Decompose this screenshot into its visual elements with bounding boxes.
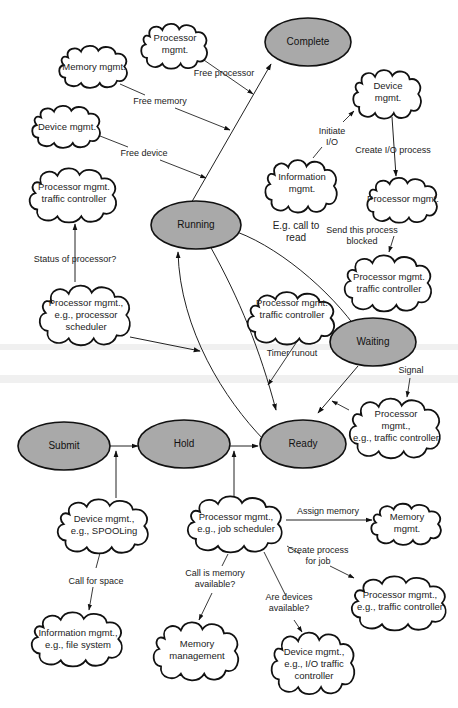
label-timer-runout: Timer runout bbox=[267, 348, 318, 358]
label-create-process: Create process bbox=[287, 545, 349, 555]
label-signal: Signal bbox=[398, 365, 423, 375]
state-label: Hold bbox=[174, 438, 195, 449]
cloud-label: traffic controller bbox=[260, 309, 325, 320]
label-create-process: for job bbox=[305, 556, 330, 566]
cloud-label: Processor mgmt. bbox=[256, 297, 328, 308]
label-call-to-read: read bbox=[286, 232, 306, 243]
leader-initiate-io-a bbox=[313, 147, 322, 158]
cloud-label: traffic controller bbox=[357, 283, 422, 294]
cloud-label: Information mgmt., bbox=[38, 627, 117, 638]
leader-are-devices-a bbox=[264, 552, 286, 596]
cloud-job-scheduler: Processor mgmt., e.g., job scheduler bbox=[188, 496, 282, 552]
cloud-label: Memory bbox=[390, 511, 425, 522]
cloud-device-mgmt-left: Device mgmt. bbox=[32, 106, 100, 148]
state-label: Ready bbox=[289, 438, 318, 449]
cloud-label: management bbox=[169, 650, 225, 661]
cloud-label: e.g., traffic controller bbox=[353, 432, 439, 443]
cloud-label: Processor mgmt. bbox=[353, 271, 425, 282]
edge-running-complete bbox=[190, 64, 271, 205]
cloud-processor-traffic-left: Processor mgmt. traffic controller bbox=[30, 168, 116, 222]
cloud-processor-scheduler: Processor mgmt., e.g., processor schedul… bbox=[40, 286, 130, 346]
leader-call-memory-a bbox=[222, 554, 228, 566]
cloud-label: e.g., SPOOLing bbox=[71, 525, 138, 536]
cloud-label: mgmt., bbox=[381, 420, 410, 431]
edge-waiting-ready bbox=[318, 366, 358, 413]
label-initiate-io: Initiate bbox=[319, 126, 346, 136]
state-complete: Complete bbox=[265, 18, 351, 66]
cloud-memory-management: Memory management bbox=[154, 622, 238, 680]
state-hold: Hold bbox=[138, 420, 230, 468]
cloud-device-mgmt-right: Device mgmt. bbox=[353, 70, 421, 119]
cloud-label: Processor mgmt., bbox=[363, 589, 437, 600]
cloud-label: e.g., file system bbox=[45, 639, 111, 650]
leader-signal-cloud bbox=[332, 401, 349, 410]
state-label: Submit bbox=[48, 440, 79, 451]
label-free-memory: Free memory bbox=[133, 96, 187, 106]
leader-send-blocked bbox=[389, 236, 394, 252]
cloud-label: Device bbox=[373, 80, 402, 91]
cloud-label: mgmt. bbox=[375, 92, 401, 103]
leader-call-space-a bbox=[96, 553, 100, 568]
cloud-processor-mgmt-right: Processor mgmt. bbox=[367, 178, 439, 223]
state-diagram: Complete Running Waiting Submit Hold Rea… bbox=[0, 0, 458, 708]
cloud-label: Memory mgmt. bbox=[62, 61, 125, 72]
state-label: Complete bbox=[287, 36, 330, 47]
leader-call-space-b bbox=[89, 587, 93, 610]
cloud-label: mgmt. bbox=[289, 183, 315, 194]
cloud-label: Processor bbox=[154, 32, 197, 43]
state-submit: Submit bbox=[18, 422, 110, 470]
scan-band bbox=[0, 375, 458, 383]
label-are-devices: Are devices bbox=[265, 592, 313, 602]
state-label: Running bbox=[177, 219, 214, 230]
leader-initiate-io-b bbox=[343, 111, 354, 122]
label-initiate-io: I/O bbox=[326, 137, 338, 147]
label-call-to-read: E.g. call to bbox=[273, 220, 320, 231]
cloud-processor-traffic-right: Processor mgmt. traffic controller bbox=[345, 255, 431, 311]
cloud-label: Processor mgmt., bbox=[199, 511, 273, 522]
cloud-processor-traffic-mid: Processor mgmt. traffic controller bbox=[248, 292, 334, 344]
cloud-info-filesystem: Information mgmt., e.g., file system bbox=[32, 612, 122, 666]
cloud-label: e.g., I/O traffic bbox=[284, 658, 344, 669]
cloud-label: Processor mgmt., bbox=[49, 297, 123, 308]
leader-free-memory-b bbox=[175, 108, 230, 130]
cloud-label: Device mgmt. bbox=[38, 121, 96, 132]
cloud-information-mgmt: Information mgmt. bbox=[265, 160, 336, 212]
cloud-label: e.g., job scheduler bbox=[197, 523, 275, 534]
label-create-io-process: Create I/O process bbox=[355, 145, 431, 155]
label-free-processor: Free processor bbox=[194, 68, 255, 78]
label-free-device: Free device bbox=[120, 148, 167, 158]
state-running: Running bbox=[151, 201, 241, 249]
cloud-memory-mgmt-top: Memory mgmt. bbox=[59, 46, 127, 88]
cloud-label: Device mgmt., bbox=[284, 646, 345, 657]
cloud-label: mgmt. bbox=[394, 523, 420, 534]
cloud-label: e.g., processor bbox=[55, 309, 118, 320]
cloud-label: traffic controller bbox=[42, 193, 107, 204]
state-label: Waiting bbox=[357, 336, 390, 347]
cloud-processor-signal: Processor mgmt., e.g., traffic controlle… bbox=[350, 399, 440, 459]
cloud-label: Device mgmt., bbox=[74, 513, 135, 524]
label-call-memory: available? bbox=[195, 579, 236, 589]
label-send-blocked: Send this process bbox=[326, 225, 398, 235]
label-send-blocked: blocked bbox=[346, 236, 377, 246]
label-status-of-processor: Status of processor? bbox=[34, 254, 117, 264]
cloud-label: mgmt. bbox=[162, 44, 188, 55]
cloud-label: Processor mgmt. bbox=[38, 181, 110, 192]
state-ready: Ready bbox=[260, 420, 346, 468]
cloud-memory-mgmt-bottom: Memory mgmt. bbox=[371, 504, 440, 545]
leader-free-device-b bbox=[160, 160, 206, 178]
label-call-memory: Call is memory bbox=[185, 568, 245, 578]
cloud-label: controller bbox=[294, 670, 333, 681]
label-call-for-space: Call for space bbox=[68, 576, 123, 586]
cloud-device-spooling: Device mgmt., e.g., SPOOLing bbox=[58, 499, 148, 553]
leader-are-devices-b bbox=[294, 620, 302, 632]
label-are-devices: available? bbox=[269, 603, 310, 613]
leader-free-device-a bbox=[100, 136, 128, 147]
cloud-device-io: Device mgmt., e.g., I/O traffic controll… bbox=[272, 633, 355, 695]
label-assign-memory: Assign memory bbox=[297, 506, 360, 516]
cloud-label: Processor bbox=[375, 408, 418, 419]
cloud-processor-mgmt-top: Processor mgmt. bbox=[141, 24, 207, 69]
cloud-label: Memory bbox=[180, 638, 215, 649]
leader-call-memory-b bbox=[199, 593, 212, 620]
cloud-label: Processor mgmt. bbox=[367, 193, 439, 204]
cloud-label: Information bbox=[278, 171, 326, 182]
